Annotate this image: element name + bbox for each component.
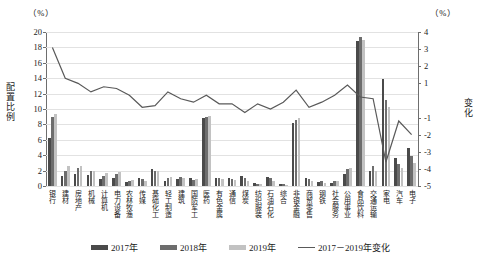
right-axis-tickmark <box>418 169 421 170</box>
legend-item[interactable]: 2019年 <box>229 241 276 254</box>
x-axis-label: 食品饮料 <box>356 190 363 218</box>
left-axis-tickmark <box>43 186 46 187</box>
left-axis-tickmark <box>43 32 46 33</box>
legend-swatch <box>91 245 108 250</box>
chart-legend: 2017年2018年2019年2017－2019年变化 <box>0 241 481 254</box>
x-axis-label: 商贸零售 <box>305 190 312 218</box>
left-axis-tick-label: 20 <box>22 27 42 37</box>
right-axis-tickmark <box>418 32 421 33</box>
x-axis-label: 基础化工 <box>151 190 158 218</box>
x-axis-label: 轻工制造 <box>164 190 171 218</box>
legend-label: 2017年 <box>111 241 138 254</box>
left-axis-title: 配置比例 <box>4 82 17 122</box>
x-axis-label: 纺织服装 <box>254 190 261 218</box>
left-axis-tick-label: 8 <box>22 119 42 129</box>
left-axis-tick-label: 10 <box>22 104 42 114</box>
left-axis-tick-label: 12 <box>22 89 42 99</box>
legend-item[interactable]: 2018年 <box>160 241 207 254</box>
x-axis-label: 石油石化 <box>266 190 273 218</box>
right-axis-tick-label: -2 <box>424 130 444 140</box>
right-axis-tick-label: 3 <box>424 44 444 54</box>
x-axis-label: 医药 <box>202 190 209 204</box>
change-line <box>52 47 411 162</box>
x-axis-label: 钢铁 <box>318 190 325 204</box>
right-axis-tickmark <box>418 83 421 84</box>
right-axis-tick-label: 4 <box>424 27 444 37</box>
x-axis-label: 机械 <box>87 190 94 204</box>
x-axis-label: 社会服务 <box>331 190 338 218</box>
right-axis-tick-label: 1 <box>424 78 444 88</box>
x-axis-label: 计算机 <box>100 190 107 211</box>
right-axis-tickmark <box>418 186 421 187</box>
right-axis-tick-label: -5 <box>424 181 444 191</box>
x-axis-label: 银行 <box>48 190 55 204</box>
change-line-series <box>46 32 418 186</box>
left-axis-unit: （%） <box>28 6 54 18</box>
x-axis-label: 煤炭 <box>241 190 248 204</box>
legend-item[interactable]: 2017年 <box>91 241 138 254</box>
x-axis-label: 建筑 <box>177 190 184 204</box>
right-axis-tick-label: -3 <box>424 147 444 157</box>
legend-swatch <box>160 245 177 250</box>
x-axis-label: 农林牧渔 <box>125 190 132 218</box>
left-axis-tickmark <box>43 63 46 64</box>
left-axis-tick-label: 18 <box>22 42 42 52</box>
legend-label: 2017－2019年变化 <box>318 241 390 254</box>
x-axis-label: 有色金属 <box>215 190 222 218</box>
right-axis-tick-label: -1 <box>424 113 444 123</box>
plot-right-border <box>418 32 419 186</box>
legend-item[interactable]: 2017－2019年变化 <box>298 241 390 254</box>
left-axis-tickmark <box>43 171 46 172</box>
x-axis-label: 电子 <box>408 190 415 204</box>
left-axis-tick-label: 4 <box>22 150 42 160</box>
left-axis-tickmark <box>43 47 46 48</box>
x-axis-label: 综合 <box>279 190 286 204</box>
x-axis-label: 公用事业 <box>343 190 350 218</box>
left-axis-tickmark <box>43 124 46 125</box>
left-axis-tick-label: 6 <box>22 135 42 145</box>
right-axis-unit: （%） <box>430 6 456 18</box>
x-axis-label: 非银金融 <box>292 190 299 218</box>
x-axis-label: 国防军工 <box>190 190 197 218</box>
legend-label: 2019年 <box>249 241 276 254</box>
legend-swatch <box>298 247 315 248</box>
gridline <box>46 186 418 187</box>
left-axis-tickmark <box>43 78 46 79</box>
x-axis-label: 建材 <box>61 190 68 204</box>
right-axis-title: 变化 <box>462 98 475 118</box>
x-axis-label: 电力设备 <box>113 190 120 218</box>
left-axis-tickmark <box>43 94 46 95</box>
chart-container: （%） （%） 配置比例 变化 02468101214161820 -5-4-3… <box>0 0 481 263</box>
right-axis-tickmark <box>418 135 421 136</box>
x-axis-label: 汽车 <box>395 190 402 204</box>
left-axis-tick-label: 2 <box>22 166 42 176</box>
right-axis-tick-label: 2 <box>424 61 444 71</box>
left-axis-tick-label: 0 <box>22 181 42 191</box>
plot-area <box>46 32 418 186</box>
left-axis-tickmark <box>43 155 46 156</box>
right-axis-tickmark <box>418 66 421 67</box>
legend-swatch <box>229 245 246 250</box>
right-axis-tickmark <box>418 152 421 153</box>
x-axis-label: 家电 <box>382 190 389 204</box>
left-axis-tickmark <box>43 109 46 110</box>
legend-label: 2018年 <box>180 241 207 254</box>
x-axis-label: 房地产 <box>74 190 81 211</box>
x-axis-label: 交通运输 <box>369 190 376 218</box>
right-axis-tickmark <box>418 118 421 119</box>
left-axis-tick-label: 16 <box>22 58 42 68</box>
right-axis-tickmark <box>418 49 421 50</box>
x-axis-label: 传媒 <box>138 190 145 204</box>
left-axis-tickmark <box>43 140 46 141</box>
x-axis-label: 通信 <box>228 190 235 204</box>
right-axis-tick-label: -4 <box>424 164 444 174</box>
left-axis-tick-label: 14 <box>22 73 42 83</box>
